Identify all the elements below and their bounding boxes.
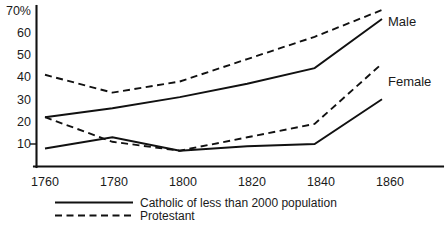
annotation-male: Male — [388, 14, 416, 29]
line-chart: 70% 60 50 40 30 20 10 1760 1780 1800 182… — [0, 0, 447, 228]
legend-label-catholic: Catholic of less than 2000 population — [140, 196, 337, 210]
x-tick-label-1780: 1780 — [100, 175, 128, 189]
x-axis-ticklabels: 1760 1780 1800 1820 1840 1860 — [31, 175, 404, 189]
legend-label-protestant: Protestant — [140, 209, 195, 223]
x-tick-label-1760: 1760 — [31, 175, 59, 189]
chart-canvas: 70% 60 50 40 30 20 10 1760 1780 1800 182… — [0, 0, 447, 228]
series-female-catholic — [45, 99, 382, 150]
series-annotations: Male Female — [388, 14, 431, 89]
series-male-catholic — [45, 19, 382, 117]
y-axis-ticklabels: 70% 60 50 40 30 20 10 — [6, 4, 31, 151]
x-tick-label-1800: 1800 — [169, 175, 197, 189]
series-female-protestant — [45, 64, 382, 151]
x-tick-label-1860: 1860 — [376, 175, 404, 189]
y-tick-label-10: 10 — [17, 137, 31, 151]
y-tick-label-60: 60 — [17, 26, 31, 40]
x-tick-label-1840: 1840 — [307, 175, 335, 189]
y-tick-label-30: 30 — [17, 93, 31, 107]
y-tick-label-20: 20 — [17, 115, 31, 129]
x-tick-label-1820: 1820 — [238, 175, 266, 189]
chart-legend: Catholic of less than 2000 population Pr… — [55, 196, 337, 223]
y-tick-label-50: 50 — [17, 48, 31, 62]
y-tick-label-40: 40 — [17, 70, 31, 84]
series-group — [45, 10, 382, 151]
y-tick-label-70: 70% — [6, 4, 31, 18]
series-male-protestant — [45, 10, 382, 93]
annotation-female: Female — [388, 74, 431, 89]
